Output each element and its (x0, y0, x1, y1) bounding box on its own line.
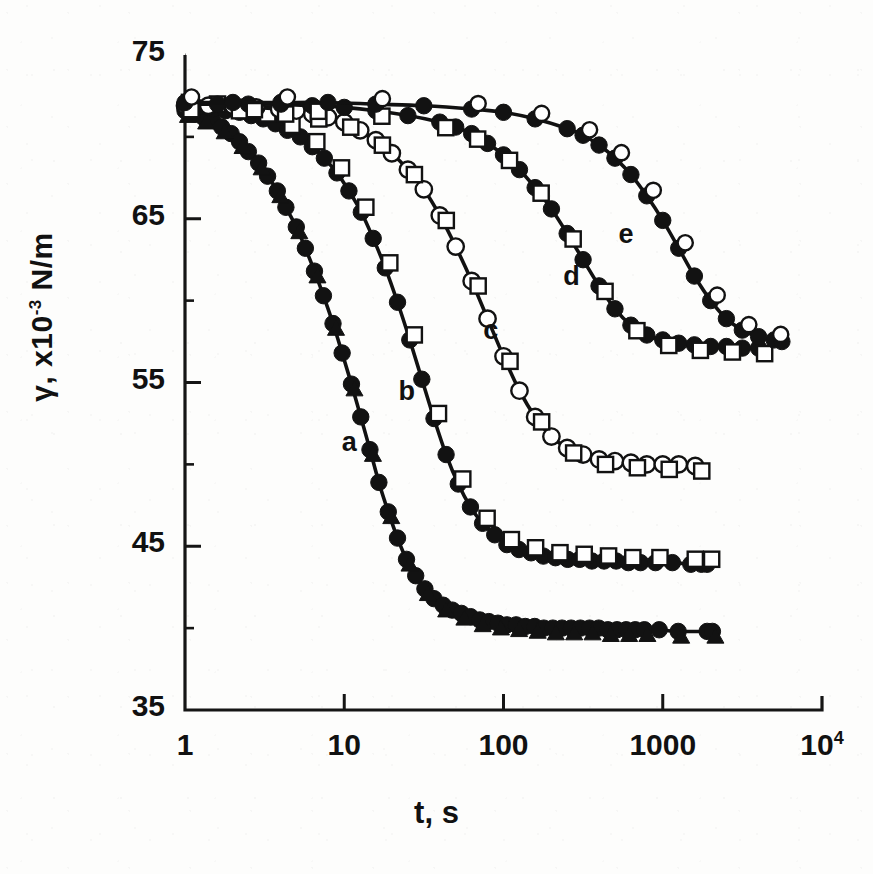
data-point-open-square (407, 327, 422, 342)
data-point-filled-circle (297, 240, 313, 256)
x-tick-label: 104 (762, 728, 873, 762)
data-point-filled-circle (225, 94, 241, 110)
data-point-open-circle (614, 145, 629, 160)
data-point-open-square (455, 471, 470, 486)
data-point-filled-circle (438, 446, 454, 462)
y-axis-label-exponent: -3 (26, 299, 45, 315)
data-point-open-square (625, 550, 640, 565)
data-point-open-square (630, 460, 645, 475)
data-point-filled-circle (495, 104, 511, 120)
data-point-open-square (534, 414, 549, 429)
data-point-open-circle (534, 106, 549, 121)
data-point-open-square (693, 343, 708, 358)
data-point-open-square (334, 160, 349, 175)
data-point-open-square (688, 552, 703, 567)
data-point-filled-circle (462, 499, 478, 515)
data-point-open-square (439, 213, 454, 228)
data-point-open-circle (773, 327, 788, 342)
data-point-open-square (502, 354, 517, 369)
data-point-open-circle (543, 428, 559, 444)
data-point-filled-circle (400, 107, 416, 123)
data-point-open-square (502, 153, 517, 168)
data-point-open-square (566, 445, 581, 460)
data-point-open-square (552, 545, 567, 560)
data-point-open-square (247, 102, 262, 117)
data-point-filled-circle (559, 120, 575, 136)
data-point-open-square (661, 338, 676, 353)
x-tick-label: 1 (125, 728, 245, 762)
data-point-open-square (704, 552, 719, 567)
data-point-open-square (629, 323, 644, 338)
x-tick-label: 10 (284, 728, 404, 762)
y-tick-label: 65 (55, 198, 165, 232)
data-point-open-square (577, 547, 592, 562)
data-point-filled-circle (416, 98, 432, 114)
y-tick-label: 35 (55, 689, 165, 723)
x-tick-label: 1000 (603, 728, 723, 762)
data-point-filled-circle (341, 183, 357, 199)
data-point-open-circle (678, 235, 693, 250)
data-point-open-square (470, 132, 485, 147)
data-point-open-square (504, 532, 519, 547)
x-tick-label: 100 (444, 728, 564, 762)
data-point-open-square (597, 284, 612, 299)
data-point-open-square (438, 120, 453, 135)
data-point-open-circle (511, 382, 527, 398)
data-point-filled-circle (389, 530, 405, 546)
data-point-filled-circle (607, 301, 623, 317)
data-point-open-square (309, 134, 324, 149)
chart-figure: γ, x10-3 N/m t, s 7565554535110100100010… (0, 0, 873, 874)
data-point-open-square (382, 255, 397, 270)
curve-label-e: e (618, 219, 633, 250)
data-point-open-square (534, 186, 549, 201)
data-point-open-square (598, 457, 613, 472)
data-point-filled-circle (320, 94, 336, 110)
data-point-open-square (479, 511, 494, 526)
y-axis-label-unit: N/m (25, 232, 58, 299)
data-point-open-circle (710, 288, 725, 303)
data-point-filled-circle (655, 212, 671, 228)
curve-label-d: d (563, 261, 580, 292)
y-tick-label: 45 (55, 525, 165, 559)
curve-label-c: c (483, 315, 498, 346)
data-point-open-square (431, 406, 446, 421)
data-point-open-square (528, 540, 543, 555)
data-point-filled-circle (543, 201, 559, 217)
data-point-open-square (694, 463, 709, 478)
data-point-open-circle (646, 183, 661, 198)
data-point-open-square (757, 346, 772, 361)
data-point-open-square (725, 344, 740, 359)
data-point-open-circle (184, 89, 199, 104)
data-point-filled-circle (353, 409, 369, 425)
data-point-open-square (662, 462, 677, 477)
series-d (177, 96, 772, 361)
data-point-open-circle (416, 181, 432, 197)
data-point-open-square (375, 138, 390, 153)
data-point-filled-circle (316, 150, 332, 166)
y-axis-label-comma: , x10 (25, 315, 58, 384)
data-point-open-circle (471, 96, 486, 111)
data-point-open-square (407, 167, 422, 182)
data-point-filled-circle (718, 310, 734, 326)
y-tick-label: 55 (55, 362, 165, 396)
data-point-filled-circle (389, 294, 405, 310)
data-point-filled-circle (334, 345, 350, 361)
data-point-open-square (652, 550, 667, 565)
data-point-filled-circle (623, 166, 639, 182)
data-point-open-square (601, 548, 616, 563)
data-point-open-square (358, 200, 373, 215)
data-point-filled-circle (414, 371, 430, 387)
x-axis-label: t, s (0, 795, 873, 831)
data-point-filled-circle (651, 622, 667, 638)
y-axis-label-symbol: γ (25, 385, 58, 402)
data-point-filled-circle (365, 230, 381, 246)
curve-label-a: a (342, 427, 357, 458)
data-point-open-square (471, 278, 486, 293)
data-point-open-circle (582, 122, 597, 137)
data-point-filled-circle (315, 288, 331, 304)
y-tick-label: 75 (55, 34, 165, 68)
data-point-open-circle (375, 91, 390, 106)
y-axis-label: γ, x10-3 N/m (25, 197, 59, 437)
data-point-filled-circle (371, 474, 387, 490)
data-point-open-square (566, 231, 581, 246)
